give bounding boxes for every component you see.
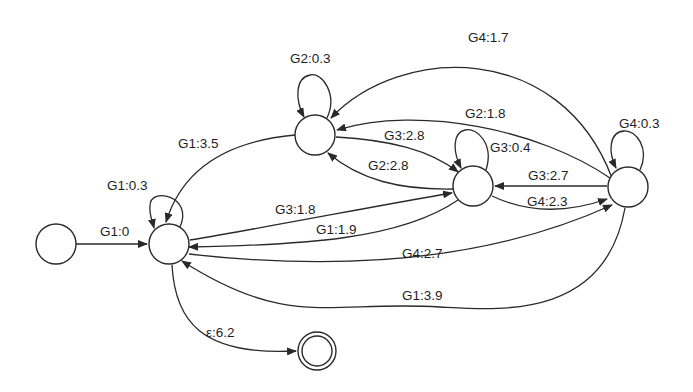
edge-B-to-B <box>298 75 331 118</box>
edges-layer <box>76 68 643 352</box>
state-node-B <box>295 115 335 155</box>
edge-D-to-D <box>611 131 643 170</box>
automaton-diagram: G1:0G1:0.3G1:3.5G2:0.3G4:1.7G2:1.8G3:2.8… <box>0 0 693 392</box>
edge-label: G4:2.3 <box>527 194 568 209</box>
edge-label: G2:1.8 <box>465 106 506 121</box>
edge-label: G3:1.8 <box>275 202 316 217</box>
edge-label: G3:0.4 <box>490 140 531 155</box>
edge-label: G3:2.7 <box>528 168 569 183</box>
state-circle <box>608 167 648 207</box>
state-circle <box>295 115 335 155</box>
edge-label: G2:2.8 <box>368 158 409 173</box>
state-circle <box>453 166 493 206</box>
edge-label: G4:2.7 <box>402 246 443 261</box>
edge-label: G1:0.3 <box>107 178 148 193</box>
edge-label: G3:2.8 <box>384 128 425 143</box>
state-circle <box>36 224 76 264</box>
edge-label: G1:3.9 <box>402 288 443 303</box>
edge-label: ε:6.2 <box>206 325 235 340</box>
edge-label: G1:3.5 <box>178 136 219 151</box>
edge-label: G2:0.3 <box>290 51 331 66</box>
final-state-node <box>298 332 336 370</box>
edge-A-to-A <box>150 196 183 228</box>
final-state-inner-circle <box>302 336 332 366</box>
edge-label: G4:0.3 <box>619 116 660 131</box>
edge-A-to-D <box>189 205 612 262</box>
nodes-layer <box>36 115 648 370</box>
state-node-C <box>453 166 493 206</box>
edge-label: G1:0 <box>100 224 129 239</box>
edge-label: G1:1.9 <box>316 222 357 237</box>
state-node-A <box>149 224 189 264</box>
state-node-start <box>36 224 76 264</box>
state-circle <box>149 224 189 264</box>
labels-layer: G1:0G1:0.3G1:3.5G2:0.3G4:1.7G2:1.8G3:2.8… <box>100 30 660 340</box>
edge-C-to-C <box>455 130 488 170</box>
state-node-D <box>608 167 648 207</box>
edge-label: G4:1.7 <box>468 30 509 45</box>
